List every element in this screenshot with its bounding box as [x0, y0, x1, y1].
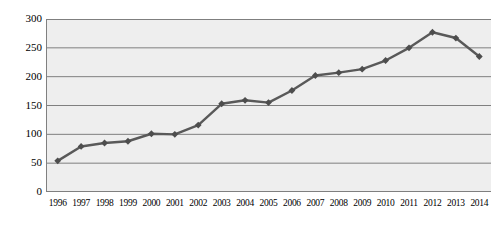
x-axis-tick-label: 2004 [233, 196, 256, 214]
y-axis-tick-label: 300 [12, 13, 42, 24]
x-axis-tick-label: 2013 [444, 196, 467, 214]
data-series [54, 29, 482, 164]
y-axis-tick-label: 50 [12, 157, 42, 168]
line-chart: 050100150200250300 199619971998199920002… [0, 0, 504, 233]
x-axis-tick-label: 2006 [280, 196, 303, 214]
y-axis: 050100150200250300 [8, 0, 42, 233]
x-axis-tick-label: 2010 [374, 196, 397, 214]
y-axis-tick-label: 150 [12, 100, 42, 111]
y-axis-tick-label: 250 [12, 42, 42, 53]
x-axis-tick-label: 2014 [468, 196, 491, 214]
x-axis-tick-label: 2012 [421, 196, 444, 214]
x-axis: 1996199719981999200020012002200320042005… [46, 196, 491, 214]
y-axis-tick-label: 200 [12, 71, 42, 82]
x-axis-tick-label: 2001 [163, 196, 186, 214]
data-point-marker [101, 140, 108, 147]
y-axis-tick-label: 0 [12, 186, 42, 197]
plot-svg [46, 19, 491, 192]
series-line [58, 32, 480, 161]
x-axis-tick-label: 1999 [116, 196, 139, 214]
data-point-marker [171, 131, 178, 138]
plot-area [46, 19, 491, 192]
x-axis-tick-label: 2008 [327, 196, 350, 214]
x-axis-tick-label: 1998 [93, 196, 116, 214]
x-axis-tick-label: 2000 [140, 196, 163, 214]
x-axis-tick-label: 1997 [69, 196, 92, 214]
y-axis-tick-label: 100 [12, 128, 42, 139]
x-axis-tick-label: 2005 [257, 196, 280, 214]
data-point-marker [148, 130, 155, 137]
x-axis-tick-label: 2009 [350, 196, 373, 214]
x-axis-tick-label: 2011 [397, 196, 420, 214]
data-point-marker [335, 69, 342, 76]
data-point-marker [125, 138, 132, 145]
data-point-marker [359, 66, 366, 73]
x-axis-tick-label: 2002 [187, 196, 210, 214]
data-point-marker [242, 97, 249, 104]
x-axis-tick-label: 2003 [210, 196, 233, 214]
x-axis-tick-label: 1996 [46, 196, 69, 214]
x-axis-tick-label: 2007 [304, 196, 327, 214]
